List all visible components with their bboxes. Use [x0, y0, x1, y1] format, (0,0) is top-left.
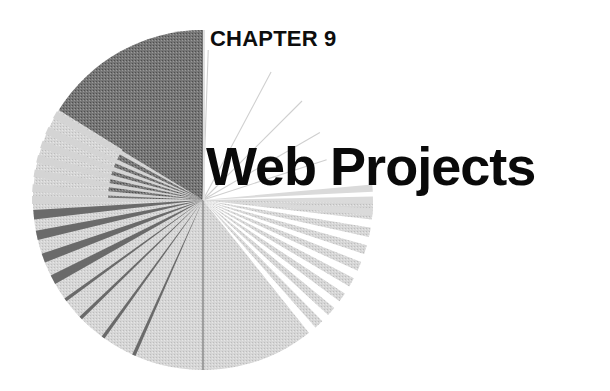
chapter-number-label: CHAPTER 9	[210, 28, 337, 50]
chapter-title: Web Projects	[206, 140, 535, 193]
